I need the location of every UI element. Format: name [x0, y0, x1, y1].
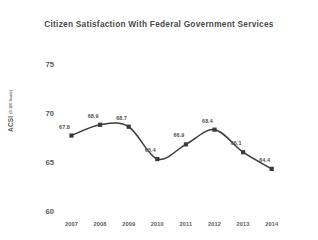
value-label-2012: 68.4	[191, 118, 225, 124]
value-label-2014: 64.4	[248, 157, 282, 163]
value-label-2007: 67.8	[48, 124, 82, 130]
value-label-2013: 66.1	[219, 140, 253, 146]
data-value-labels: 67.868.968.765.466.968.466.164.4	[0, 0, 318, 240]
chart-container: Citizen Satisfaction With Federal Govern…	[0, 0, 318, 240]
value-label-2010: 65.4	[133, 147, 167, 153]
value-label-2009: 68.7	[105, 115, 139, 121]
value-label-2011: 66.9	[162, 132, 196, 138]
